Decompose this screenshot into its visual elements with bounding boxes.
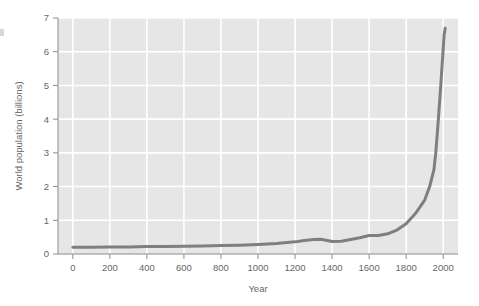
x-tick-label: 1600 xyxy=(359,262,380,273)
x-axis-title: Year xyxy=(248,283,267,294)
x-tick-label: 600 xyxy=(176,262,192,273)
y-tick-label: 3 xyxy=(44,147,49,158)
y-tick-label: 1 xyxy=(44,215,49,226)
y-tick-label: 5 xyxy=(44,80,49,91)
world-population-chart: 01234567 0200400600800100012001400160018… xyxy=(0,0,479,306)
x-tick-label: 200 xyxy=(102,262,118,273)
x-tick-label: 2000 xyxy=(433,262,454,273)
x-tick-label: 800 xyxy=(213,262,229,273)
y-tick-label: 2 xyxy=(44,181,49,192)
x-tick-label: 1400 xyxy=(322,262,343,273)
y-axis-ticks xyxy=(53,18,58,254)
chart-svg: 01234567 0200400600800100012001400160018… xyxy=(0,0,479,306)
x-tick-label: 1000 xyxy=(247,262,268,273)
x-tick-label: 1200 xyxy=(284,262,305,273)
x-axis-ticks xyxy=(73,254,443,259)
x-tick-label: 1800 xyxy=(396,262,417,273)
y-axis-title: World population (billions) xyxy=(13,81,24,190)
x-axis-tick-labels: 0200400600800100012001400160018002000 xyxy=(70,262,454,273)
y-tick-label: 6 xyxy=(44,46,49,57)
y-tick-label: 7 xyxy=(44,12,49,23)
x-tick-label: 400 xyxy=(139,262,155,273)
x-tick-label: 0 xyxy=(70,262,75,273)
y-axis-tick-labels: 01234567 xyxy=(44,12,49,259)
y-tick-label: 0 xyxy=(44,248,49,259)
y-tick-label: 4 xyxy=(44,114,49,125)
